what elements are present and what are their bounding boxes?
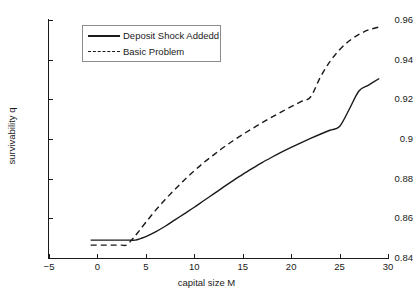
legend-item-0: Deposit Shock Addedd [83, 28, 220, 44]
legend-line-solid-icon [88, 35, 120, 37]
legend-label-0: Deposit Shock Addedd [123, 29, 219, 43]
legend-line-dashed-icon [88, 51, 120, 52]
y-axis-label-text: survivability q [5, 86, 19, 186]
x-tick-label: 30 [368, 261, 408, 272]
legend-item-1: Basic Problem [83, 44, 220, 60]
x-tick-label: 25 [320, 261, 360, 272]
x-axis-line [48, 258, 389, 259]
legend-label-1: Basic Problem [123, 45, 184, 59]
x-tick-mark [388, 254, 389, 258]
x-tick-label: 15 [223, 261, 263, 272]
legend-box: Deposit Shock Addedd Basic Problem [82, 25, 221, 62]
x-tick-label: 10 [174, 261, 214, 272]
series-line-0 [91, 79, 380, 241]
x-tick-label: −5 [29, 261, 69, 272]
x-tick-label: 0 [77, 261, 117, 272]
x-tick-label: 20 [271, 261, 311, 272]
chart-figure: 0.840.860.880.90.920.940.96 −50510152025… [0, 0, 413, 303]
y-axis-label: survivability q [5, 86, 19, 186]
y-tick-mark [49, 258, 53, 259]
x-axis-label-text: capital size M [0, 277, 413, 288]
x-tick-label: 5 [126, 261, 166, 272]
